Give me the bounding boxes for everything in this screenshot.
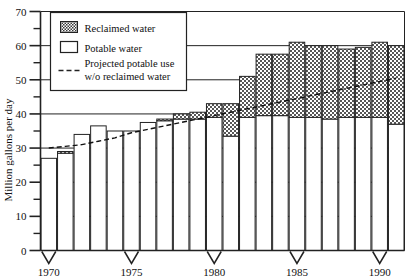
bar-segment-reclaimed	[372, 42, 388, 117]
y-tick-label: 10	[16, 210, 28, 222]
bar-1974	[107, 131, 123, 251]
bar-segment-potable	[355, 117, 371, 250]
y-tick-label: 60	[16, 40, 28, 52]
bar-1989	[355, 47, 371, 250]
legend-swatch-potable-water	[61, 42, 78, 53]
bar-segment-reclaimed	[289, 42, 305, 117]
y-tick-label: 30	[16, 142, 28, 154]
bar-segment-potable	[388, 124, 404, 250]
bar-segment-reclaimed	[306, 46, 322, 118]
bar-1980	[206, 104, 222, 251]
y-tick-label: 50	[16, 74, 28, 86]
legend-swatch-reclaimed-water	[61, 22, 78, 33]
bar-1981	[223, 104, 239, 251]
bar-1977	[157, 119, 173, 250]
bar-1986	[306, 46, 322, 251]
bar-segment-potable	[289, 117, 305, 250]
bar-segment-reclaimed	[190, 112, 206, 119]
bar-1978	[173, 114, 189, 251]
bar-segment-reclaimed	[339, 49, 355, 117]
bar-segment-potable	[223, 136, 239, 250]
bar-1987	[322, 46, 338, 251]
bar-1975	[124, 131, 140, 251]
x-tick-label: 1980	[203, 266, 226, 277]
bar-1979	[190, 112, 206, 250]
bar-1976	[140, 122, 156, 250]
bar-segment-potable	[206, 117, 222, 250]
bar-segment-potable	[74, 134, 90, 250]
y-tick-label: 40	[16, 108, 28, 120]
bar-segment-potable	[322, 119, 338, 250]
bar-1971	[58, 151, 74, 250]
y-tick-label: 20	[16, 176, 28, 188]
bar-segment-potable	[41, 158, 57, 250]
bar-segment-potable	[140, 122, 156, 250]
bar-segment-reclaimed	[322, 46, 338, 119]
bar-segment-potable	[107, 131, 123, 251]
bar-1970	[41, 158, 57, 250]
bar-1984	[273, 54, 289, 250]
bar-1982	[240, 76, 256, 250]
water-use-stacked-bar-chart: 010203040506070 19701975198019851990 Rec…	[0, 0, 415, 277]
bar-segment-potable	[339, 117, 355, 250]
bar-segment-potable	[58, 153, 74, 250]
bar-segment-potable	[372, 117, 388, 250]
chart-container: 010203040506070 19701975198019851990 Rec…	[0, 0, 415, 277]
bar-segment-potable	[91, 126, 107, 251]
bar-segment-potable	[173, 119, 189, 250]
bar-segment-reclaimed	[256, 54, 272, 115]
bar-segment-potable	[240, 117, 256, 250]
bar-1983	[256, 54, 272, 250]
bar-1985	[289, 42, 305, 250]
y-tick-label: 70	[16, 6, 28, 18]
chart-legend: Reclaimed waterPotable waterProjected po…	[51, 13, 187, 91]
bar-segment-potable	[273, 116, 289, 251]
bar-segment-potable	[124, 131, 140, 251]
bar-1988	[339, 49, 355, 250]
bar-segment-reclaimed	[355, 47, 371, 117]
y-tick-label: 0	[21, 245, 27, 257]
x-tick-label: 1970	[38, 266, 61, 277]
x-tick-label: 1990	[369, 266, 392, 277]
bar-segment-potable	[190, 119, 206, 250]
bar-segment-reclaimed	[58, 151, 74, 153]
x-tick-label: 1985	[286, 266, 309, 277]
bar-segment-reclaimed	[157, 119, 173, 121]
bar-segment-reclaimed	[273, 54, 289, 115]
bar-1972	[74, 134, 90, 250]
y-axis-title: Million gallons per day	[2, 98, 14, 201]
bar-segment-potable	[256, 116, 272, 251]
bar-segment-reclaimed	[388, 46, 404, 125]
legend-label-projected-line-2: w/o reclaimed water	[85, 71, 171, 82]
legend-label-potable-water: Potable water	[85, 43, 143, 54]
bar-segment-reclaimed	[173, 114, 189, 119]
bar-1990	[372, 42, 388, 250]
bar-segment-reclaimed	[223, 104, 239, 136]
bar-segment-potable	[306, 117, 322, 250]
bar-1991	[388, 46, 404, 251]
x-tick-label: 1975	[121, 266, 144, 277]
legend-label-reclaimed-water: Reclaimed water	[85, 23, 156, 34]
bar-segment-potable	[157, 121, 173, 251]
bar-segment-reclaimed	[240, 76, 256, 117]
bar-1973	[91, 126, 107, 251]
legend-label-projected-line-1: Projected potable use	[85, 58, 175, 69]
